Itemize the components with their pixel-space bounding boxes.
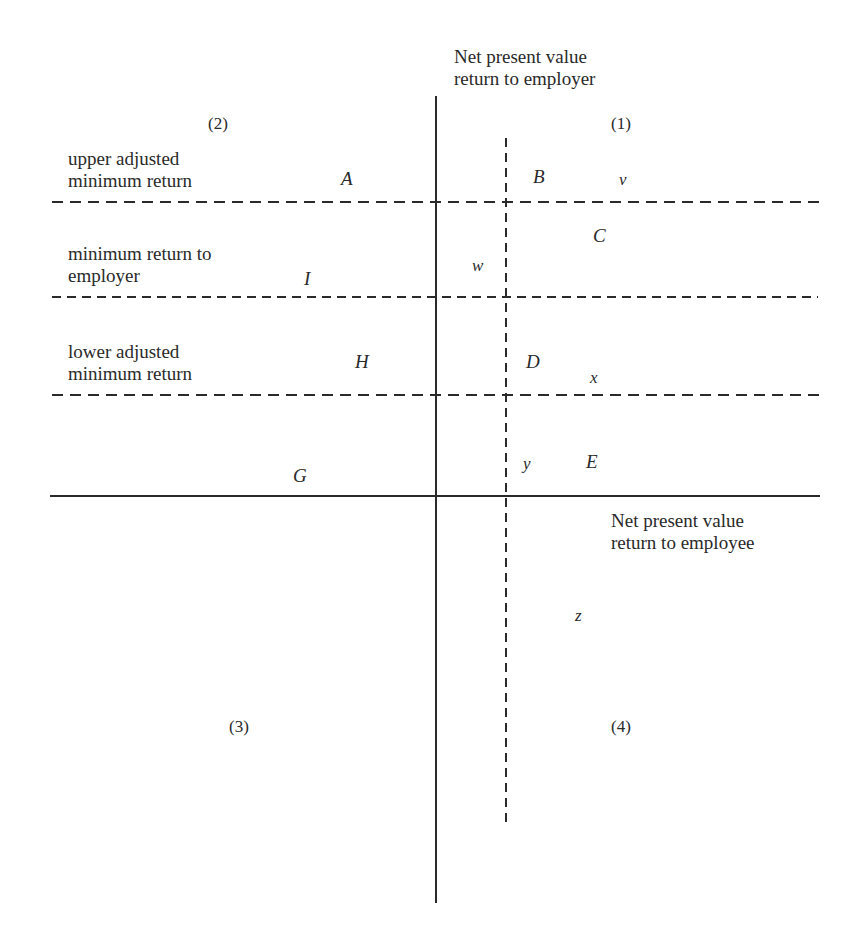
region-x: x bbox=[590, 367, 598, 389]
employee-axis-label-line1: Net present value bbox=[611, 510, 755, 532]
quadrant-4-label: (4) bbox=[611, 716, 631, 738]
region-z: z bbox=[575, 605, 582, 627]
quadrant-2-label: (2) bbox=[208, 113, 228, 135]
region-B: B bbox=[533, 166, 545, 188]
quadrant-1-label: (1) bbox=[611, 113, 631, 135]
region-E: E bbox=[586, 451, 598, 473]
band-label-line2: employer bbox=[68, 265, 212, 287]
employer-axis-label-line1: Net present value bbox=[454, 46, 595, 68]
band-label-lower-adjusted: lower adjusted minimum return bbox=[68, 341, 192, 385]
region-D: D bbox=[526, 351, 540, 373]
employer-axis-label-line2: return to employer bbox=[454, 68, 595, 90]
band-label-line1: upper adjusted bbox=[68, 148, 192, 170]
band-label-line2: minimum return bbox=[68, 363, 192, 385]
diagram-lines bbox=[0, 0, 857, 939]
employee-axis-label-line2: return to employee bbox=[611, 532, 755, 554]
quadrant-3-label: (3) bbox=[229, 716, 249, 738]
region-y: y bbox=[523, 453, 531, 475]
region-I: I bbox=[304, 268, 310, 290]
band-label-line1: lower adjusted bbox=[68, 341, 192, 363]
band-label-line1: minimum return to bbox=[68, 243, 212, 265]
employee-axis-label: Net present value return to employee bbox=[611, 510, 755, 554]
band-label-line2: minimum return bbox=[68, 170, 192, 192]
region-G: G bbox=[293, 465, 307, 487]
band-label-upper-adjusted: upper adjusted minimum return bbox=[68, 148, 192, 192]
employer-axis-label: Net present value return to employer bbox=[454, 46, 595, 90]
band-label-minimum-return: minimum return to employer bbox=[68, 243, 212, 287]
region-w: w bbox=[472, 255, 483, 277]
region-A: A bbox=[341, 168, 353, 190]
region-H: H bbox=[355, 351, 369, 373]
region-v: v bbox=[619, 169, 627, 191]
region-C: C bbox=[593, 225, 606, 247]
